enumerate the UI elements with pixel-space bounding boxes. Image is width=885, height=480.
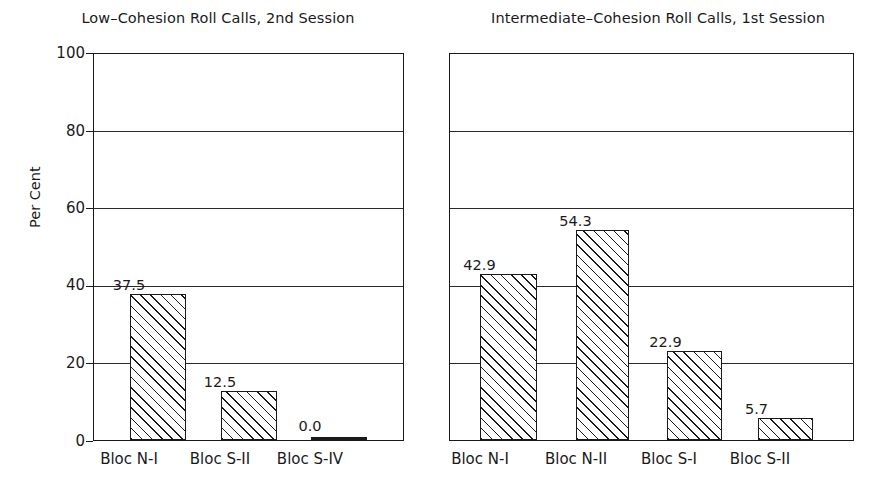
category-label-right-3: Bloc S-II bbox=[714, 452, 806, 467]
y-tick-label-40: 40 bbox=[41, 278, 85, 293]
bar-left-0 bbox=[130, 294, 186, 440]
gridline-80 bbox=[94, 131, 403, 132]
y-tick-mark-100 bbox=[86, 53, 93, 54]
category-label-right-0: Bloc N-I bbox=[435, 452, 525, 467]
category-label-left-0: Bloc N-I bbox=[83, 452, 175, 467]
bar-value-left-2: 0.0 bbox=[282, 419, 338, 434]
category-label-left-1: Bloc S-II bbox=[174, 452, 266, 467]
two-panel-bar-chart-figure: Low–Cohesion Roll Calls, 2nd Session Per… bbox=[0, 0, 885, 480]
bar-value-right-2: 22.9 bbox=[638, 335, 693, 350]
y-tick-mark-0 bbox=[86, 441, 93, 442]
bar-value-right-0: 42.9 bbox=[451, 258, 508, 273]
chart-title-right: Intermediate–Cohesion Roll Calls, 1st Se… bbox=[443, 10, 873, 26]
y-tick-label-0: 0 bbox=[41, 434, 85, 449]
y-tick-label-60: 60 bbox=[41, 201, 85, 216]
gridline-80 bbox=[450, 131, 853, 132]
bar-left-2 bbox=[311, 437, 367, 440]
y-tick-label-80: 80 bbox=[41, 124, 85, 139]
bar-right-0 bbox=[480, 274, 537, 440]
y-tick-mark-40 bbox=[86, 286, 93, 287]
bar-right-2 bbox=[667, 351, 722, 440]
gridline-60 bbox=[94, 208, 403, 209]
y-tick-mark-80 bbox=[86, 131, 93, 132]
bar-value-left-1: 12.5 bbox=[192, 375, 248, 390]
chart-panel-left: Low–Cohesion Roll Calls, 2nd Session Per… bbox=[0, 0, 443, 480]
y-tick-label-20: 20 bbox=[41, 356, 85, 371]
category-label-left-2: Bloc S-IV bbox=[264, 452, 356, 467]
y-axis-left: Per Cent 100 80 60 40 20 0 bbox=[33, 0, 85, 480]
gridline-60 bbox=[450, 208, 853, 209]
bar-value-right-3: 5.7 bbox=[729, 402, 784, 417]
bar-right-1 bbox=[576, 230, 629, 440]
plot-area-right bbox=[449, 53, 854, 441]
category-label-right-1: Bloc N-II bbox=[530, 452, 622, 467]
y-tick-mark-20 bbox=[86, 363, 93, 364]
bar-value-right-1: 54.3 bbox=[549, 214, 602, 229]
y-tick-label-100: 100 bbox=[41, 46, 85, 61]
y-axis-title: Per Cent bbox=[27, 166, 43, 228]
category-label-right-2: Bloc S-I bbox=[624, 452, 714, 467]
bar-right-3 bbox=[758, 418, 813, 440]
plot-area-left bbox=[93, 53, 404, 441]
bar-left-1 bbox=[221, 391, 277, 440]
bar-value-left-0: 37.5 bbox=[101, 278, 157, 293]
y-tick-mark-60 bbox=[86, 208, 93, 209]
chart-panel-right: Intermediate–Cohesion Roll Calls, 1st Se… bbox=[443, 0, 885, 480]
